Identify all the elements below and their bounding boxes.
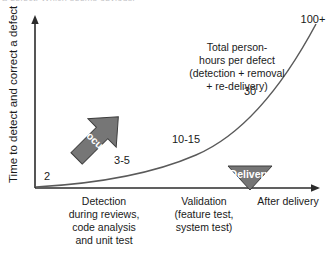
annotation-line-1: Total person- xyxy=(207,41,268,53)
x-category-detection-line-2: during reviews, xyxy=(69,208,140,220)
data-label-100-plus: 100+ xyxy=(301,13,326,25)
person-hours-annotation: Total person- hours per defect (detectio… xyxy=(189,41,284,92)
y-axis xyxy=(31,15,38,188)
delivery-marker: Delivery xyxy=(228,166,272,190)
x-category-detection-line-3: code analysis xyxy=(72,221,136,233)
x-category-detection: Detection during reviews, code analysis … xyxy=(69,195,140,246)
y-axis-label: Time to detect and correct a defect xyxy=(7,5,19,183)
x-category-detection-line-4: and unit test xyxy=(75,234,132,246)
delivery-marker-label: Delivery xyxy=(230,168,271,180)
annotation-line-4: + re-delivery) xyxy=(206,80,268,92)
data-label-2: 2 xyxy=(44,170,50,182)
data-label-10-15: 10-15 xyxy=(172,133,200,145)
x-category-detection-line-1: Detection xyxy=(82,195,127,207)
x-axis-arrowhead xyxy=(311,184,320,191)
x-category-validation-line-1: Validation xyxy=(181,195,226,207)
annotation-line-2: hours per defect xyxy=(199,54,275,66)
x-category-after-delivery: After delivery xyxy=(257,195,319,207)
defect-cost-curve-figure: Time to detect and correct a defect 2 3-… xyxy=(0,0,335,259)
x-category-validation: Validation (feature test, system test) xyxy=(175,195,234,233)
x-category-validation-line-3: system test) xyxy=(176,221,233,233)
x-category-after-delivery-line-1: After delivery xyxy=(257,195,319,207)
x-category-validation-line-2: (feature test, xyxy=(175,208,234,220)
x-axis xyxy=(35,184,320,191)
y-axis-arrowhead xyxy=(31,15,38,24)
data-label-3-5: 3-5 xyxy=(114,154,130,166)
cost-curve xyxy=(36,24,316,187)
annotation-line-3: (detection + removal xyxy=(189,67,284,79)
